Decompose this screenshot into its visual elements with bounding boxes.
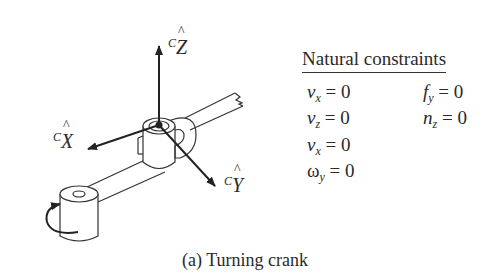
constraint-subscript: x xyxy=(315,144,320,158)
constraint-rhs: = 0 xyxy=(330,160,355,181)
hat-icon: ^ xyxy=(234,162,241,178)
constraint-right-0: fy = 0 xyxy=(423,81,463,106)
constraint-rhs: = 0 xyxy=(438,81,463,102)
constraint-symbol: ω xyxy=(307,160,320,181)
constraint-right-1: nz = 0 xyxy=(423,107,467,132)
hat-icon: ^ xyxy=(63,118,70,134)
figure-caption: (a) Turning crank xyxy=(182,250,308,271)
constraint-rhs: = 0 xyxy=(326,81,351,102)
constraint-left-0: vx = 0 xyxy=(307,81,350,106)
constraints-title: Natural constraints xyxy=(302,48,446,73)
z-axis-frame-superscript: C xyxy=(168,36,176,50)
y-axis-frame-superscript: C xyxy=(224,174,232,188)
hat-icon: ^ xyxy=(178,24,185,40)
frame-origin xyxy=(156,122,163,129)
constraint-subscript: y xyxy=(428,91,433,105)
constraint-rhs: = 0 xyxy=(442,107,467,128)
constraint-left-1: vz = 0 xyxy=(307,107,350,132)
y-axis-label: C^Y xyxy=(224,174,243,197)
x-axis-frame-superscript: C xyxy=(53,130,61,144)
constraint-rhs: = 0 xyxy=(326,134,351,155)
x-axis-label: C^X xyxy=(53,130,73,153)
constraint-subscript: z xyxy=(433,117,438,131)
constraint-left-2: vx = 0 xyxy=(307,134,350,159)
turning-crank-diagram xyxy=(0,0,503,273)
constraint-left-3: ωy = 0 xyxy=(307,160,355,185)
constraint-subscript: x xyxy=(315,91,320,105)
constraint-subscript: y xyxy=(320,170,325,184)
constraint-symbol: n xyxy=(423,107,433,128)
joint-cylinder xyxy=(138,118,196,169)
constraint-subscript: z xyxy=(315,117,320,131)
constraint-rhs: = 0 xyxy=(325,107,350,128)
z-axis-label: C^Z xyxy=(168,36,187,59)
